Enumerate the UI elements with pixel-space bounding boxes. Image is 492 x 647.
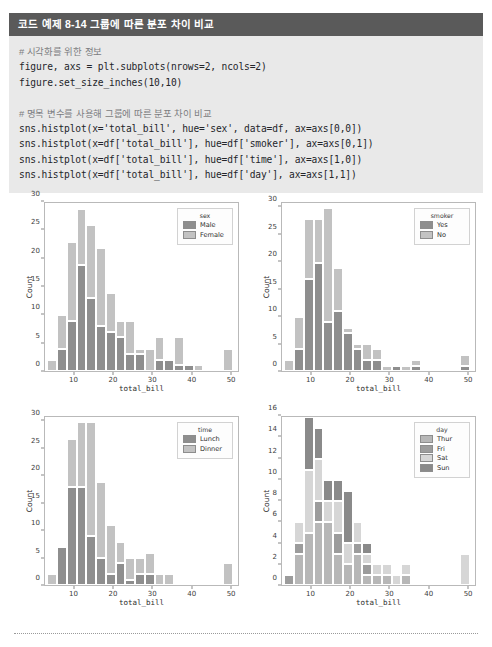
matplotlib-figure: sexMaleFemale0510152025301020304050total… xyxy=(14,196,480,616)
bar-segment xyxy=(353,543,363,554)
y-tick-label: 0 xyxy=(36,360,40,368)
y-tick-mark xyxy=(41,585,44,586)
x-tick-mark xyxy=(468,372,469,375)
bar-segment xyxy=(382,564,392,575)
x-axis-label: total_bill xyxy=(281,598,476,607)
code-example-block: 코드 예제 8-14 그룹에 따른 분포 차이 비교 # 시각화를 위한 정보f… xyxy=(9,13,483,193)
x-tick-label: 20 xyxy=(345,590,354,598)
y-tick-label: 12 xyxy=(268,447,277,455)
legend-label: Sat xyxy=(437,454,448,462)
legend-day: dayThurFriSatSun xyxy=(414,422,470,478)
bar-segment xyxy=(106,525,116,574)
y-tick-label: 0 xyxy=(273,574,277,582)
bar-segment xyxy=(106,293,116,332)
bar-segment xyxy=(57,315,67,349)
bar-segment xyxy=(57,547,67,585)
bar-segment xyxy=(155,360,165,371)
y-tick-mark xyxy=(41,475,44,476)
legend-item: Yes xyxy=(420,221,464,229)
y-tick-mark xyxy=(41,314,44,315)
y-tick-label: 20 xyxy=(268,250,277,258)
code-example-header: 코드 예제 8-14 그룹에 따른 분포 차이 비교 xyxy=(9,13,483,36)
bar-segment xyxy=(294,554,304,586)
bar-segment xyxy=(323,522,333,585)
bar-segment xyxy=(164,360,174,371)
bar-segment xyxy=(135,558,145,574)
bar-segment xyxy=(333,533,343,554)
y-tick-mark xyxy=(278,206,281,207)
legend-swatch-icon xyxy=(183,221,196,229)
legend-swatch-icon xyxy=(420,435,433,443)
x-tick-mark xyxy=(428,586,429,589)
bar-segment xyxy=(57,349,67,371)
legend-swatch-icon xyxy=(420,231,433,239)
bar-segment xyxy=(96,558,106,585)
y-tick-mark xyxy=(41,447,44,448)
y-axis-label: Count xyxy=(262,490,271,512)
legend-title: day xyxy=(420,426,464,433)
x-tick-mark xyxy=(389,372,390,375)
legend-item: No xyxy=(420,231,464,239)
y-tick-label: 30 xyxy=(31,409,40,417)
x-tick-label: 30 xyxy=(385,590,394,598)
bar-segment xyxy=(411,366,421,371)
subplot-time: timeLunchDinner0510152025301020304050tot… xyxy=(14,410,243,616)
bar-segment xyxy=(116,542,126,564)
footer-divider xyxy=(14,633,478,634)
y-tick-mark xyxy=(41,201,44,202)
legend-item: Sat xyxy=(420,454,464,462)
legend-item: Thur xyxy=(420,435,464,443)
x-tick-mark xyxy=(349,372,350,375)
bar-segment xyxy=(460,366,470,371)
legend-label: Male xyxy=(200,221,216,229)
bar-segment xyxy=(460,554,470,586)
code-line: sns.histplot(x=df['total_bill'], hue=df[… xyxy=(19,152,473,167)
y-tick-mark xyxy=(278,343,281,344)
bar-segment xyxy=(353,344,363,349)
bar-segment xyxy=(284,575,294,586)
bar-segment xyxy=(323,480,333,501)
bar-segment xyxy=(164,574,174,585)
plot-area-smoker: smokerYesNo0510152025301020304050total_b… xyxy=(281,202,476,372)
bar-segment xyxy=(294,522,304,543)
bar-segment xyxy=(294,543,304,554)
y-tick-label: 8 xyxy=(273,489,277,497)
bar-segment xyxy=(333,311,343,371)
y-tick-label: 14 xyxy=(268,425,277,433)
y-tick-label: 25 xyxy=(268,223,277,231)
bar-segment xyxy=(333,501,343,533)
bar-segment xyxy=(86,422,96,536)
bar-segment xyxy=(401,575,411,586)
y-tick-mark xyxy=(278,261,281,262)
legend-label: Sun xyxy=(437,464,450,472)
legend-title: smoker xyxy=(420,212,464,219)
x-tick-label: 10 xyxy=(69,376,78,384)
y-tick-mark xyxy=(41,229,44,230)
y-tick-mark xyxy=(278,316,281,317)
bar-segment xyxy=(77,265,87,371)
y-tick-mark xyxy=(41,420,44,421)
bar-segment xyxy=(135,354,145,371)
y-tick-mark xyxy=(41,286,44,287)
bar-segment xyxy=(125,321,135,355)
bar-segment xyxy=(314,459,324,501)
bar-segment xyxy=(372,575,382,586)
bar-segment xyxy=(96,248,106,326)
legend-time: timeLunchDinner xyxy=(177,422,233,459)
bar-segment xyxy=(314,501,324,522)
y-tick-mark xyxy=(278,371,281,372)
bar-segment xyxy=(86,536,96,585)
bar-segment xyxy=(343,328,353,333)
bar-segment xyxy=(116,563,126,585)
bar-segment xyxy=(333,554,343,586)
axes-day: dayThurFriSatSun xyxy=(281,416,476,586)
bar-segment xyxy=(145,349,155,371)
bar-segment xyxy=(284,360,294,371)
bar-segment xyxy=(174,337,184,365)
y-axis-label: Count xyxy=(25,490,34,512)
x-tick-label: 10 xyxy=(69,590,78,598)
code-line: figure.set_size_inches(10,10) xyxy=(19,75,473,90)
y-tick-label: 20 xyxy=(31,247,40,255)
legend-swatch-icon xyxy=(420,221,433,229)
y-tick-mark xyxy=(278,563,281,564)
